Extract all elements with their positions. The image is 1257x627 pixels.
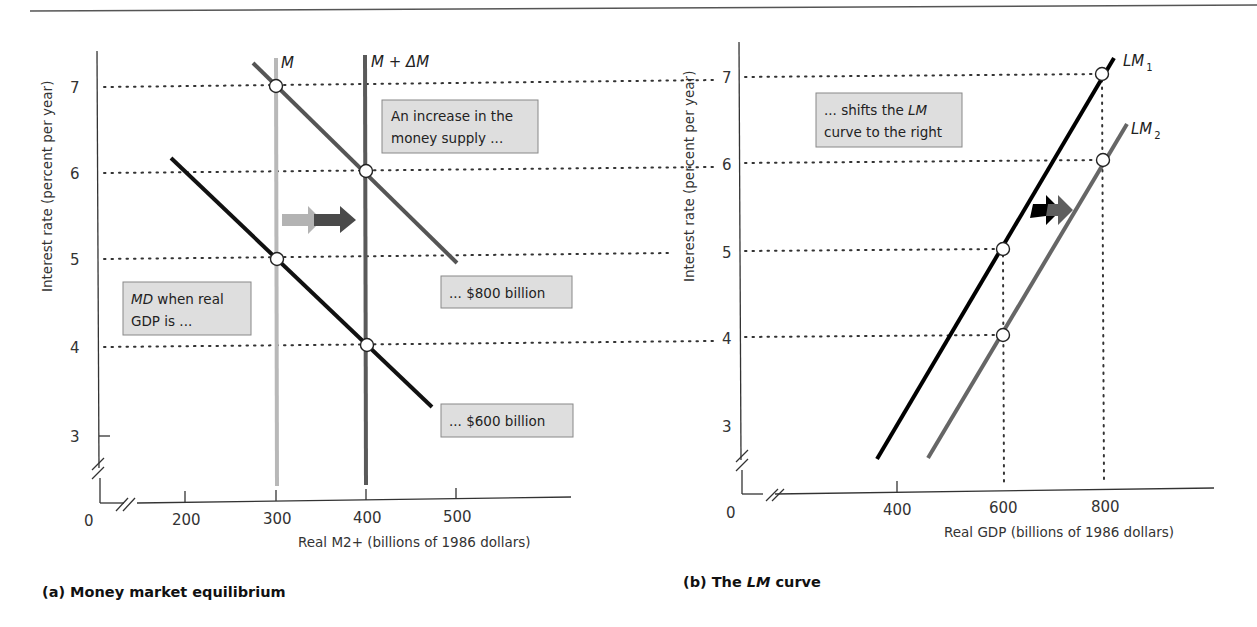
panel-b-lm-curve: 7 6 5 4 3 0 400 600 800 Real GDP (billio… xyxy=(681,42,1214,590)
b-x-axis-title: Real GDP (billions of 1986 dollars) xyxy=(944,524,1174,540)
y-axis-title: Interest rate (percent per year) xyxy=(39,81,55,292)
equilibrium-point-a4 xyxy=(361,339,374,352)
money-supply-m-line xyxy=(276,58,277,486)
y-tick-5: 5 xyxy=(70,251,80,269)
svg-text:GDP is ...: GDP is ... xyxy=(131,313,192,329)
label-m-delta-m: M + ΔM xyxy=(371,53,429,71)
b-y-tick-7: 7 xyxy=(722,69,732,87)
svg-text:... $800 billion: ... $800 billion xyxy=(449,285,545,301)
svg-text:... $600 billion: ... $600 billion xyxy=(449,413,545,429)
lm-point-b4 xyxy=(997,329,1010,342)
panel-a-caption: (a) Money market equilibrium xyxy=(42,584,286,600)
panel-b-axes xyxy=(736,42,1214,501)
b-x-tick-600: 600 xyxy=(989,499,1018,517)
x-axis-title: Real M2+ (billions of 1986 dollars) xyxy=(298,534,531,550)
lm2-curve xyxy=(928,124,1127,458)
annotation-shifts-lm-curve: ... shifts the LM curve to the right xyxy=(816,93,962,147)
lm-point-b2 xyxy=(1097,154,1110,167)
md-800-curve xyxy=(253,63,457,263)
annotation-800-billion: ... $800 billion xyxy=(441,276,572,308)
b-origin-label: 0 xyxy=(726,504,736,522)
svg-text:money supply ...: money supply ... xyxy=(391,130,503,146)
x-tick-500: 500 xyxy=(443,508,472,526)
b-y-tick-5: 5 xyxy=(722,244,732,262)
y-tick-3: 3 xyxy=(70,428,80,446)
y-tick-4: 4 xyxy=(70,339,80,357)
panel-b-caption: (b) The LM curve xyxy=(683,574,821,590)
svg-text:... shifts the LM: ... shifts the LM xyxy=(824,102,928,118)
equilibrium-point-a1 xyxy=(270,80,283,93)
money-supply-m-plus-delta-line xyxy=(365,55,366,485)
annotation-600-billion: ... $600 billion xyxy=(441,404,573,437)
svg-text:MD when real: MD when real xyxy=(131,291,224,307)
lm-point-b3 xyxy=(997,243,1010,256)
x-tick-200: 200 xyxy=(172,511,201,529)
label-lm1: LM1 xyxy=(1123,52,1153,73)
annotation-md-when-real-gdp: MD when real GDP is ... xyxy=(123,282,251,335)
y-tick-7: 7 xyxy=(70,79,80,97)
lm-curve-figure: 7 6 5 4 3 0 200 300 400 500 Real M2+ (bi… xyxy=(0,0,1257,627)
panel-a-money-market: 7 6 5 4 3 0 200 300 400 500 Real M2+ (bi… xyxy=(39,51,715,600)
top-rule xyxy=(30,5,1257,11)
b-y-axis-title: Interest rate (percent per year) xyxy=(681,71,697,282)
lm-point-b1 xyxy=(1096,68,1109,81)
label-lm2: LM2 xyxy=(1131,120,1161,141)
b-y-tick-6: 6 xyxy=(722,156,732,174)
svg-text:curve to the right: curve to the right xyxy=(824,124,942,140)
x-tick-300: 300 xyxy=(263,510,292,528)
b-y-tick-3: 3 xyxy=(722,418,732,436)
origin-label: 0 xyxy=(84,512,94,530)
label-m: M xyxy=(281,54,294,72)
b-y-tick-4: 4 xyxy=(722,330,732,348)
svg-text:An increase in the: An increase in the xyxy=(391,108,513,124)
y-tick-6: 6 xyxy=(70,165,80,183)
annotation-increase-money-supply: An increase in the money supply ... xyxy=(382,100,538,153)
b-x-tick-800: 800 xyxy=(1091,498,1120,516)
equilibrium-point-a3 xyxy=(271,253,284,266)
b-x-tick-400: 400 xyxy=(883,501,912,519)
equilibrium-point-a2 xyxy=(360,165,373,178)
lm-shift-arrow-icon xyxy=(1030,195,1073,225)
x-tick-400: 400 xyxy=(353,509,382,527)
money-supply-shift-arrow-icon xyxy=(282,206,356,234)
